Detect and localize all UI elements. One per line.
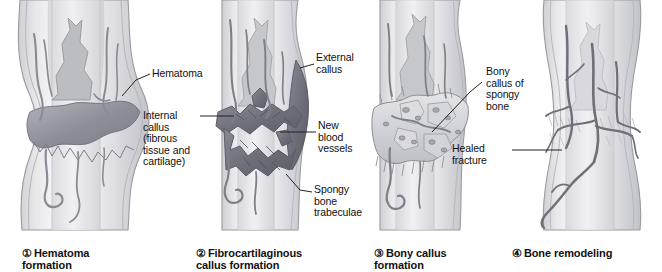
caption-text-1: Hematoma formation	[22, 247, 89, 272]
panel-number-1: ①	[22, 247, 32, 259]
label-hematoma: Hematoma	[152, 68, 203, 80]
caption-text-2: Fibrocartilaginous callus formation	[196, 247, 302, 272]
panel-2-artwork	[200, 0, 316, 230]
panel-number-2: ②	[196, 247, 206, 259]
label-bony-callus-of-spongy-bone: Bony callus of spongy bone	[486, 66, 524, 112]
label-healed-fracture: Healed fracture	[452, 143, 487, 166]
panel-number-4: ④	[512, 247, 522, 259]
caption-text-3: Bony callus formation	[374, 247, 447, 272]
panel-1-artwork	[18, 0, 150, 230]
caption-panel-3: ③Bony callus formation	[374, 234, 447, 272]
panel-4-artwork	[512, 0, 641, 230]
label-spongy-bone-trabeculae: Spongy bone trabeculae	[314, 184, 362, 219]
label-new-blood-vessels: New blood vessels	[318, 120, 352, 155]
caption-panel-4: ④Bone remodeling	[512, 234, 612, 259]
panel-3-artwork	[372, 0, 482, 230]
label-external-callus: External callus	[316, 52, 354, 75]
caption-panel-1: ①Hematoma formation	[22, 234, 89, 272]
caption-text-4: Bone remodeling	[524, 247, 612, 259]
caption-panel-2: ②Fibrocartilaginous callus formation	[196, 234, 302, 272]
label-internal-callus: Internal callus (fibrous tissue and cart…	[143, 110, 190, 168]
panel-number-3: ③	[374, 247, 384, 259]
